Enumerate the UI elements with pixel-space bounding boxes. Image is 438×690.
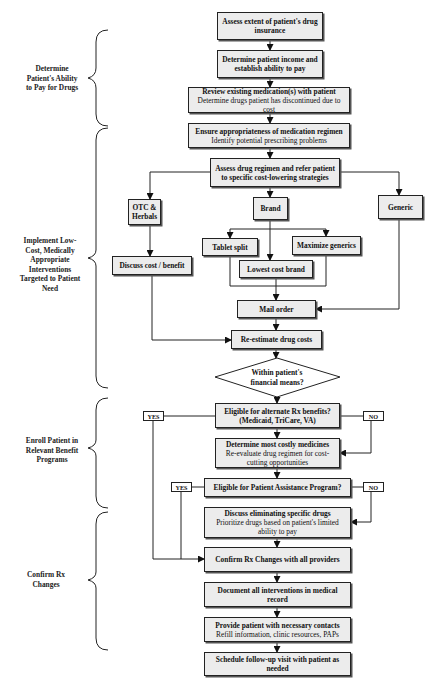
step-otc-herbals: OTC & Herbals — [128, 199, 161, 225]
step-detail: Re-evaluate drug regimen for cost-cuttin… — [219, 449, 336, 467]
step-detail: (Medicaid, TriCare, VA) — [239, 416, 316, 425]
step-detail: Prioritize drugs based on patient's limi… — [208, 518, 347, 536]
step-detail: Refill information, clinic resources, PA… — [216, 630, 339, 639]
step-provide-contacts: Provide patient with necessary contacts … — [204, 617, 351, 642]
step-title: Document all interventions in medical re… — [208, 586, 347, 604]
no-label-pap: NO — [363, 482, 384, 492]
step-title: Maximize generics — [297, 241, 356, 250]
yes-text: YES — [175, 484, 187, 491]
step-discuss-eliminating: Discuss eliminating specific drugs Prior… — [204, 507, 351, 538]
step-title: Brand — [260, 204, 280, 213]
step-title: Re-estimate drug costs — [241, 335, 312, 344]
phase-line: to Pay for Drugs — [14, 83, 90, 93]
phase-label-confirm: Confirm Rx Changes — [14, 570, 78, 589]
phase-line: Targeted to Patient — [10, 274, 90, 284]
step-detail: Determine drugs patient has discontinued… — [192, 96, 346, 114]
step-title: Assess drug regimen and refer patient to… — [214, 164, 336, 182]
step-title: Eligible for Patient Assistance Program? — [214, 483, 342, 492]
step-title: Ensure appropriateness of medication reg… — [195, 127, 342, 136]
step-title: Schedule follow-up visit with patient as… — [208, 655, 347, 673]
phase-line: Interventions — [10, 265, 90, 275]
step-lowest-cost-brand: Lowest cost brand — [239, 260, 313, 278]
phase-line: Changes — [14, 580, 78, 590]
phase-line: Programs — [14, 455, 90, 465]
step-title: Mail order — [259, 305, 293, 314]
step-title: Discuss cost / benefit — [119, 261, 184, 270]
step-assess-regimen: Assess drug regimen and refer patient to… — [210, 158, 340, 187]
yes-text: YES — [147, 413, 159, 420]
step-generic: Generic — [378, 195, 423, 219]
step-title: Generic — [388, 203, 413, 212]
phase-line: Patient's Ability — [14, 74, 90, 84]
phase-line: Determine — [14, 64, 90, 74]
phase-line: Implement Low- — [10, 236, 90, 246]
phase-line: Need — [10, 284, 90, 294]
no-label-alternate: NO — [363, 411, 384, 421]
step-detail: Identify potential prescribing problems — [211, 136, 327, 145]
phase-label-implement: Implement Low- Cost, Medically Appropria… — [10, 236, 90, 293]
step-title: Assess extent of patient's drug insuranc… — [221, 17, 319, 35]
phase-line: Appropriate — [10, 255, 90, 265]
step-document: Document all interventions in medical re… — [204, 582, 351, 607]
phase-line: Enroll Patient in — [14, 436, 90, 446]
step-title: OTC & Herbals — [132, 203, 157, 221]
step-title: Lowest cost brand — [247, 265, 305, 274]
step-title: Eligible for alternate Rx benefits? — [224, 407, 331, 416]
no-text: NO — [369, 413, 378, 420]
yes-label-alternate: YES — [143, 411, 164, 421]
step-determine-income: Determine patient income and establish a… — [217, 50, 323, 78]
yes-label-pap: YES — [171, 482, 192, 492]
step-title: Tablet split — [212, 243, 247, 252]
step-maximize-generics: Maximize generics — [292, 236, 361, 255]
step-discuss-cost: Discuss cost / benefit — [112, 256, 192, 275]
phase-label-ability: Determine Patient's Ability to Pay for D… — [14, 64, 90, 93]
step-ensure-regimen: Ensure appropriateness of medication reg… — [188, 123, 350, 148]
step-schedule-followup: Schedule follow-up visit with patient as… — [204, 652, 351, 676]
phase-line: Confirm Rx — [14, 570, 78, 580]
step-assess-insurance: Assess extent of patient's drug insuranc… — [217, 12, 323, 40]
step-reestimate: Re-estimate drug costs — [231, 330, 322, 349]
decision-text: Within patient's financial means? — [250, 368, 303, 387]
step-eligible-alternate: Eligible for alternate Rx benefits? (Med… — [215, 403, 340, 428]
step-mail-order: Mail order — [237, 300, 316, 318]
step-title: Determine patient income and establish a… — [221, 55, 319, 73]
step-most-costly: Determine most costly medicines Re-evalu… — [215, 438, 340, 468]
phase-label-enroll: Enroll Patient in Relevant Benefit Progr… — [14, 436, 90, 465]
no-text: NO — [369, 484, 378, 491]
step-title: Review existing medication(s) with patie… — [202, 87, 335, 96]
phase-line: Cost, Medically — [10, 246, 90, 256]
step-title: Determine most costly medicines — [226, 440, 329, 449]
step-confirm-rx: Confirm Rx Changes with all providers — [204, 547, 351, 572]
step-title: Provide patient with necessary contacts — [215, 621, 339, 630]
step-title: Discuss eliminating specific drugs — [224, 509, 330, 518]
decision-financial-means: Within patient's financial means? — [242, 368, 312, 387]
step-tablet-split: Tablet split — [202, 238, 258, 256]
phase-line: Relevant Benefit — [14, 446, 90, 456]
step-brand: Brand — [253, 197, 288, 220]
step-title: Confirm Rx Changes with all providers — [215, 555, 339, 564]
step-eligible-pap: Eligible for Patient Assistance Program? — [204, 478, 351, 497]
step-review-meds: Review existing medication(s) with patie… — [188, 87, 350, 113]
